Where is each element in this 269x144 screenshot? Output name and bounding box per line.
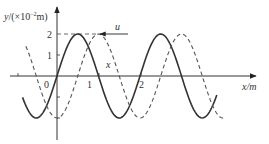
x-tick-label-1: 1 [87,79,92,90]
x-tick-label-2: 2 [139,79,144,90]
y-axis-label: y/(×10−2m) [3,11,48,23]
wave-diagram: y/(×10−2m) 1 2 0 1 2 x/m u x [0,0,269,144]
y-tick-label-1: 1 [47,50,52,61]
velocity-label: u [115,21,120,32]
dashed-wave-label: x [105,59,111,70]
x-tick-label-0: 0 [44,79,49,90]
y-tick-label-2: 2 [47,29,52,40]
x-axis-label: x/m [241,81,256,92]
